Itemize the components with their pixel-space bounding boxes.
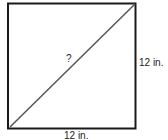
diagonal-label: ? bbox=[66, 53, 72, 64]
square-diagram: ? 12 in. 12 in. bbox=[0, 0, 168, 140]
right-side-label: 12 in. bbox=[139, 57, 163, 68]
bottom-side-label: 12 in. bbox=[64, 130, 88, 140]
diagonal-line bbox=[10, 4, 135, 127]
